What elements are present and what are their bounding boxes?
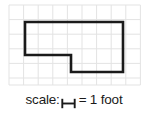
scale-equals-text: = 1 foot: [79, 92, 123, 107]
l-shaped-polygon: [25, 22, 123, 72]
scale-label: scale:: [26, 92, 60, 107]
scale-legend: scale: = 1 foot: [0, 86, 148, 112]
scale-bar-icon: [61, 95, 76, 106]
figure-diagram: scale: = 1 foot: [0, 0, 148, 115]
